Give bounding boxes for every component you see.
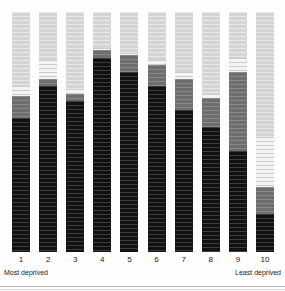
bar-stack bbox=[229, 12, 247, 252]
bar-segment-mid bbox=[148, 65, 166, 87]
x-tick-5: 5 bbox=[120, 254, 138, 268]
x-tick-2: 2 bbox=[39, 254, 57, 268]
bar-segment-dark bbox=[148, 86, 166, 252]
bar-column-1[interactable] bbox=[12, 12, 30, 252]
x-tick-3: 3 bbox=[66, 254, 84, 268]
bar-segment-white bbox=[175, 72, 193, 79]
bar-column-9[interactable] bbox=[229, 12, 247, 252]
bar-segment-light bbox=[39, 12, 57, 60]
bar-segment-dark bbox=[175, 110, 193, 252]
x-tick-1: 1 bbox=[12, 254, 30, 268]
bar-segment-light bbox=[256, 12, 274, 137]
bar-stack bbox=[12, 12, 30, 252]
bar-column-10[interactable] bbox=[256, 12, 274, 252]
plot-area bbox=[12, 12, 274, 252]
bar-segment-dark bbox=[12, 118, 30, 252]
figure-bottom-rule-secondary bbox=[0, 289, 285, 290]
bar-segment-mid bbox=[256, 187, 274, 213]
x-tick-10: 10 bbox=[256, 254, 274, 268]
bar-segment-dark bbox=[229, 151, 247, 252]
bar-column-2[interactable] bbox=[39, 12, 57, 252]
axis-endpoint-annotations: Most deprived Least deprived bbox=[4, 268, 281, 282]
x-axis-tick-labels: 1 2 3 4 5 6 7 8 9 10 bbox=[12, 254, 274, 268]
bar-segment-dark bbox=[120, 72, 138, 252]
bar-stack bbox=[256, 12, 274, 252]
chart-figure: 1 2 3 4 5 6 7 8 9 10 Most deprived Least… bbox=[0, 0, 285, 291]
bar-stack bbox=[66, 12, 84, 252]
bar-segment-mid bbox=[120, 55, 138, 72]
bar-stack bbox=[93, 12, 111, 252]
bar-segment-white bbox=[12, 86, 30, 96]
bar-segment-dark bbox=[66, 101, 84, 252]
least-deprived-label: Least deprived bbox=[235, 268, 281, 278]
bar-segment-white bbox=[256, 137, 274, 187]
bar-segment-light bbox=[202, 12, 220, 94]
x-tick-7: 7 bbox=[175, 254, 193, 268]
most-deprived-label: Most deprived bbox=[4, 268, 48, 278]
bar-column-7[interactable] bbox=[175, 12, 193, 252]
bar-segment-light bbox=[175, 12, 193, 72]
bar-segment-mid bbox=[12, 96, 30, 118]
bar-stack bbox=[202, 12, 220, 252]
bar-segment-light bbox=[148, 12, 166, 60]
bar-stack bbox=[148, 12, 166, 252]
bar-segment-dark bbox=[256, 214, 274, 252]
bar-segment-light bbox=[12, 12, 30, 86]
bar-column-3[interactable] bbox=[66, 12, 84, 252]
bar-segment-mid bbox=[66, 94, 84, 101]
x-tick-9: 9 bbox=[229, 254, 247, 268]
bar-stack bbox=[120, 12, 138, 252]
bar-segment-white bbox=[229, 58, 247, 72]
bar-segment-dark bbox=[39, 86, 57, 252]
bar-column-4[interactable] bbox=[93, 12, 111, 252]
bar-segment-dark bbox=[93, 58, 111, 252]
bar-segment-light bbox=[66, 12, 84, 89]
x-tick-4: 4 bbox=[93, 254, 111, 268]
x-tick-8: 8 bbox=[202, 254, 220, 268]
bar-column-5[interactable] bbox=[120, 12, 138, 252]
bar-stack bbox=[175, 12, 193, 252]
bar-segment-light bbox=[120, 12, 138, 53]
bar-column-8[interactable] bbox=[202, 12, 220, 252]
bar-segment-white bbox=[39, 60, 57, 79]
figure-bottom-rule bbox=[0, 286, 285, 287]
bar-segment-light bbox=[229, 12, 247, 58]
bar-segment-mid bbox=[175, 79, 193, 110]
bar-segment-dark bbox=[202, 127, 220, 252]
bar-segment-mid bbox=[93, 50, 111, 57]
bar-segment-mid bbox=[229, 72, 247, 151]
bar-segment-mid bbox=[202, 98, 220, 127]
bar-column-6[interactable] bbox=[148, 12, 166, 252]
bar-segment-light bbox=[93, 12, 111, 48]
x-tick-6: 6 bbox=[148, 254, 166, 268]
bar-stack bbox=[39, 12, 57, 252]
bar-segment-mid bbox=[39, 79, 57, 86]
